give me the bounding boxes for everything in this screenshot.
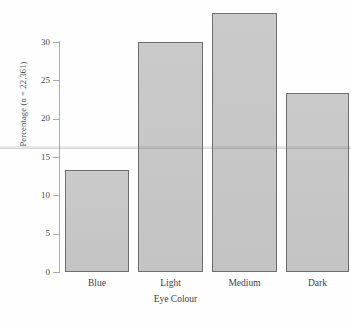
y-axis-tick-label: 0 xyxy=(12,268,50,277)
y-axis-tick-label: 30 xyxy=(12,38,50,47)
y-axis-tick-label-text: 5 xyxy=(16,229,50,238)
y-axis-tick-label: 25 xyxy=(12,76,50,85)
y-axis-tick-label: 5 xyxy=(12,229,50,238)
bar-medium[interactable] xyxy=(212,13,277,272)
x-axis-title: Eye Colour xyxy=(0,294,351,304)
y-axis-tick-label-text: 15 xyxy=(16,153,50,162)
y-axis-tick-label: 10 xyxy=(12,191,50,200)
bar-fill xyxy=(287,94,348,271)
bar-chart-figure: Percentage (n = 22,361) 051015202530 Blu… xyxy=(0,0,351,324)
y-axis-tick-label: 15 xyxy=(12,153,50,162)
x-axis-tick-label-light: Light xyxy=(138,278,203,289)
y-axis-tick-label-text: 25 xyxy=(16,76,50,85)
x-axis-tick-label-dark: Dark xyxy=(286,278,349,289)
bar-blue[interactable] xyxy=(65,170,129,272)
x-axis-tick-label-blue: Blue xyxy=(65,278,129,289)
bar-light[interactable] xyxy=(138,42,203,272)
y-axis-title: Percentage (n = 22,361) xyxy=(18,4,32,204)
y-axis-tick-label: 20 xyxy=(12,114,50,123)
plot-area xyxy=(59,5,351,273)
bar-fill xyxy=(213,14,276,271)
y-axis-tick-label-text: 30 xyxy=(16,38,50,47)
y-axis-title-prefix: Percentage ( xyxy=(18,103,28,147)
y-axis-tick-label-text: 20 xyxy=(16,114,50,123)
y-axis-title-n-symbol: n xyxy=(18,98,28,102)
bar-fill xyxy=(66,171,128,271)
bar-dark[interactable] xyxy=(286,93,349,272)
y-axis-tick-label-text: 10 xyxy=(16,191,50,200)
bar-fill xyxy=(139,43,202,271)
x-axis-tick-label-medium: Medium xyxy=(212,278,277,289)
y-axis-tick-label-text: 0 xyxy=(16,268,50,277)
